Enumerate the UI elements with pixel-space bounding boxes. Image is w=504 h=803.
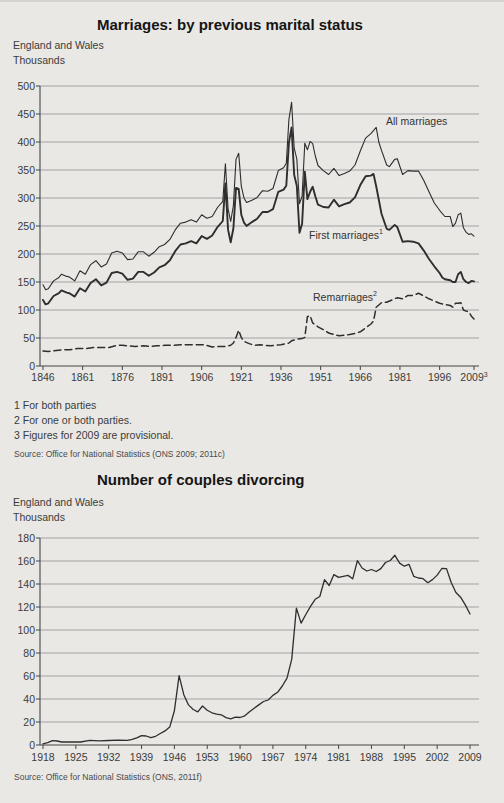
svg-text:80: 80: [23, 647, 35, 659]
svg-text:0: 0: [29, 739, 35, 751]
svg-text:20: 20: [23, 716, 35, 728]
svg-text:40: 40: [23, 693, 35, 705]
svg-text:1974: 1974: [294, 751, 318, 763]
svg-text:1995: 1995: [393, 751, 417, 763]
page-background: Marriages: by previous marital status En…: [0, 0, 504, 803]
svg-text:100: 100: [17, 624, 35, 636]
svg-text:180: 180: [17, 532, 35, 544]
svg-text:1967: 1967: [261, 751, 285, 763]
svg-text:1932: 1932: [97, 751, 121, 763]
svg-text:1988: 1988: [360, 751, 384, 763]
svg-text:120: 120: [17, 601, 35, 613]
svg-text:1918: 1918: [31, 751, 55, 763]
divorces-chart: 0204060801001201401601801918192519321939…: [0, 0, 504, 803]
svg-text:1953: 1953: [196, 751, 220, 763]
svg-text:1981: 1981: [327, 751, 351, 763]
svg-text:2009: 2009: [458, 751, 482, 763]
svg-text:1960: 1960: [228, 751, 252, 763]
svg-text:1946: 1946: [163, 751, 187, 763]
svg-text:1925: 1925: [64, 751, 88, 763]
svg-text:2002: 2002: [425, 751, 449, 763]
svg-text:60: 60: [23, 670, 35, 682]
svg-text:160: 160: [17, 555, 35, 567]
divorces-source: Source: Office for National Statistics (…: [14, 772, 202, 782]
svg-text:1939: 1939: [130, 751, 154, 763]
svg-text:140: 140: [17, 578, 35, 590]
